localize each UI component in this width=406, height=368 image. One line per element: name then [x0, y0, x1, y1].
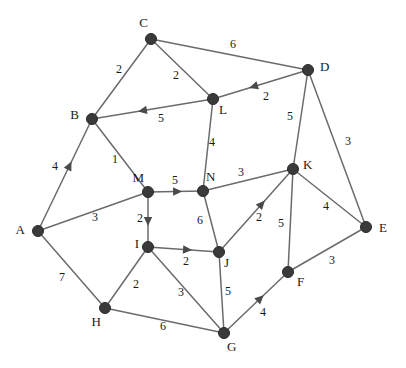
node-label: G: [227, 339, 236, 354]
node-label: D: [320, 59, 329, 74]
edge-weight-label: 6: [197, 213, 203, 227]
edge-weight-label: 2: [183, 254, 189, 268]
edge-direction-arrow-icon: [138, 106, 148, 114]
node-dot-icon: [143, 242, 154, 253]
edge-direction-arrow-icon: [173, 187, 182, 195]
graph-node-c[interactable]: C: [139, 15, 156, 45]
node-dot-icon: [146, 34, 157, 45]
node-dot-icon: [33, 226, 44, 237]
node-dot-icon: [100, 303, 111, 314]
edge-weight-label: 6: [230, 37, 236, 51]
edge-weight-label: 3: [238, 165, 244, 179]
node-dot-icon: [303, 65, 314, 76]
graph-edge: [105, 247, 148, 308]
node-dot-icon: [361, 222, 372, 233]
edge-direction-arrow-icon: [249, 81, 259, 89]
node-label: J: [224, 255, 229, 270]
edge-weight-label: 3: [345, 134, 351, 148]
graph-edge: [92, 99, 213, 119]
edge-weight-label: 2: [263, 89, 269, 103]
graph-edge: [92, 39, 151, 119]
node-dot-icon: [214, 247, 225, 258]
edge-weight-label: 2: [256, 210, 262, 224]
edge-weight-label: 2: [137, 211, 143, 225]
edge-weight-label: 2: [133, 277, 139, 291]
node-label: H: [92, 314, 101, 329]
graph-canvas: 26252534413532622453723564 ABCDEFGHIJKLM…: [0, 0, 406, 368]
nodes-layer: ABCDEFGHIJKLMN: [16, 15, 387, 354]
graph-edge: [203, 169, 293, 191]
edge-weight-label: 5: [278, 216, 284, 230]
edge-weight-label: 5: [225, 284, 231, 298]
graph-node-n[interactable]: N: [198, 169, 217, 197]
node-dot-icon: [198, 186, 209, 197]
edge-weight-label: 2: [116, 62, 122, 76]
node-label: E: [379, 220, 387, 235]
node-label: K: [303, 157, 313, 172]
graph-edge: [288, 227, 366, 272]
graph-node-e[interactable]: E: [361, 220, 388, 235]
graph-edge: [151, 39, 213, 99]
node-label: I: [135, 236, 139, 251]
node-label: B: [70, 107, 79, 122]
edge-weight-label: 5: [172, 173, 178, 187]
node-dot-icon: [283, 267, 294, 278]
edge-weight-label: 1: [112, 152, 118, 166]
node-dot-icon: [143, 187, 154, 198]
edge-direction-arrow-icon: [183, 245, 192, 253]
graph-node-a[interactable]: A: [16, 222, 44, 237]
node-label: N: [206, 169, 216, 184]
graph-diagram: 26252534413532622453723564 ABCDEFGHIJKLM…: [0, 0, 406, 368]
edge-weight-label: 4: [260, 305, 266, 319]
edge-weight-label: 3: [92, 210, 98, 224]
graph-edge: [288, 169, 293, 272]
graph-edge: [213, 70, 308, 99]
graph-node-m[interactable]: M: [132, 170, 153, 198]
node-label: L: [219, 102, 227, 117]
node-dot-icon: [288, 164, 299, 175]
graph-edge: [38, 231, 105, 308]
graph-node-b[interactable]: B: [70, 107, 97, 125]
graph-edge: [203, 191, 219, 252]
edge-weight-label: 4: [209, 135, 215, 149]
edge-weight-label: 5: [158, 111, 164, 125]
graph-edge: [224, 272, 288, 333]
graph-node-f[interactable]: F: [283, 267, 305, 289]
graph-node-l[interactable]: L: [208, 94, 228, 117]
graph-node-i[interactable]: I: [135, 236, 154, 253]
edge-weight-label: 7: [59, 270, 65, 284]
edge-weight-label: 3: [329, 253, 335, 267]
edge-weight-label: 3: [178, 285, 184, 299]
node-dot-icon: [87, 114, 98, 125]
edge-weight-label: 6: [160, 319, 166, 333]
edge-weight-label: 2: [173, 68, 179, 82]
graph-node-d[interactable]: D: [303, 59, 330, 76]
graph-node-j[interactable]: J: [214, 247, 230, 270]
node-label: M: [132, 170, 144, 185]
graph-node-h[interactable]: H: [92, 303, 111, 329]
node-label: A: [16, 222, 26, 237]
edge-weight-label: 5: [287, 109, 293, 123]
node-label: C: [139, 15, 148, 30]
edge-weight-label: 4: [323, 199, 329, 213]
node-label: F: [297, 274, 304, 289]
node-dot-icon: [208, 94, 219, 105]
edge-direction-arrow-icon: [144, 217, 152, 226]
graph-edge: [293, 70, 308, 169]
edge-weight-label: 4: [52, 159, 58, 173]
graph-node-g[interactable]: G: [219, 328, 237, 354]
graph-node-k[interactable]: K: [288, 157, 314, 175]
node-dot-icon: [219, 328, 230, 339]
